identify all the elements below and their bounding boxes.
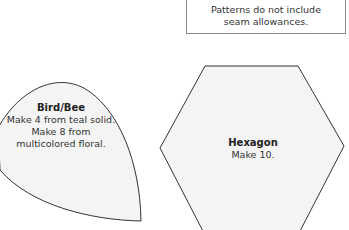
bird-bee-title: Bird/Bee (6, 102, 116, 114)
hexagon-instruction-1: Make 10. (208, 149, 298, 161)
bird-bee-instruction-3: multicolored floral. (6, 138, 116, 150)
hexagon-title: Hexagon (208, 137, 298, 149)
note-line-1: Patterns do not include (187, 4, 345, 16)
note-line-2: seam allowances. (187, 16, 345, 28)
hexagon-label: Hexagon Make 10. (208, 137, 298, 161)
bird-bee-label: Bird/Bee Make 4 from teal solid. Make 8 … (6, 102, 116, 150)
bird-bee-instruction-2: Make 8 from (6, 126, 116, 138)
seam-allowance-note: Patterns do not include seam allowances. (186, 0, 346, 34)
bird-bee-instruction-1: Make 4 from teal solid. (6, 114, 116, 126)
